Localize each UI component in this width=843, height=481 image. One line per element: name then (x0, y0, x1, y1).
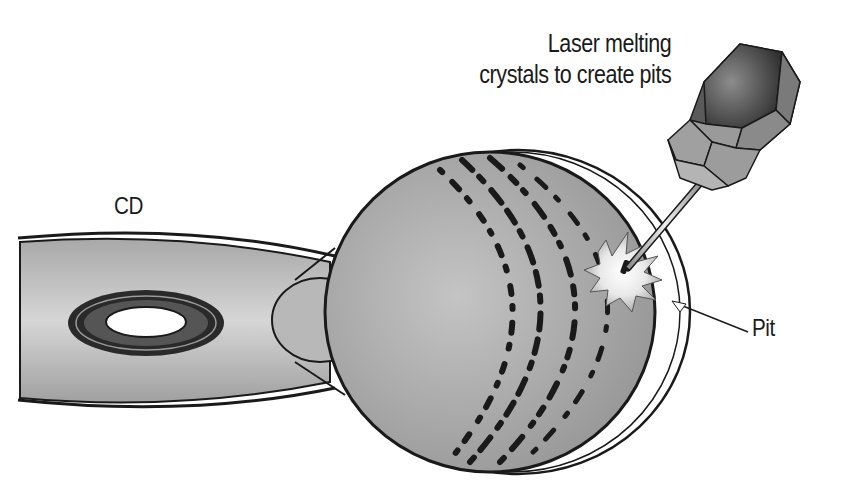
magnified-disc-section (325, 150, 690, 474)
pit-leader (672, 301, 748, 332)
laser-head-icon (668, 44, 800, 190)
diagram-graphic (0, 0, 843, 481)
cd-laser-diagram: Laser melting crystals to create pits CD… (0, 0, 843, 481)
laser-beam (628, 180, 703, 268)
cd-disc (18, 233, 368, 407)
laser-label: Laser melting crystals to create pits (479, 28, 671, 90)
laser-label-line1: Laser melting (479, 28, 671, 59)
cd-center-hole (106, 307, 186, 337)
cd-label: CD (114, 192, 143, 220)
laser-label-line2: crystals to create pits (479, 59, 671, 90)
pit-label: Pit (752, 314, 775, 342)
